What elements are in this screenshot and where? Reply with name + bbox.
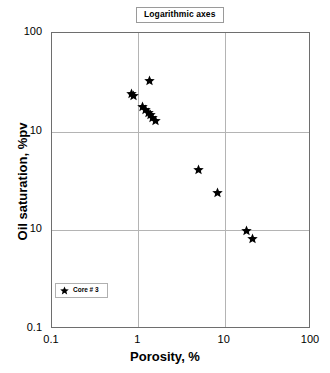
data-point-marker — [193, 164, 204, 175]
data-point-marker — [212, 187, 223, 198]
legend-label: Core # 3 — [73, 287, 99, 294]
data-point-marker — [150, 115, 161, 126]
y-tick-label: 100 — [24, 26, 47, 37]
legend-star-icon — [60, 286, 69, 295]
gridline-vertical — [225, 33, 226, 327]
x-tick-label: 0.1 — [31, 334, 71, 345]
gridline-horizontal — [52, 230, 309, 231]
chart-title: Logarithmic axes — [136, 7, 224, 23]
x-axis-title: Porosity, % — [0, 350, 330, 363]
y-axis-title: Oil saturation, %pv — [16, 92, 29, 272]
data-point-marker — [144, 75, 155, 86]
y-tick-label: 10 — [30, 125, 47, 136]
x-tick-label: 100 — [290, 334, 330, 345]
x-tick-label: 1 — [117, 334, 157, 345]
data-point-marker — [247, 233, 258, 244]
chart-figure: Logarithmic axes 10010100.1 0.1110100 Po… — [0, 0, 330, 373]
gridline-vertical — [138, 33, 139, 327]
y-tick-label: 0.1 — [27, 322, 47, 333]
y-tick-label: 10 — [30, 223, 47, 234]
x-tick-label: 10 — [204, 334, 244, 345]
gridline-horizontal — [52, 132, 309, 133]
legend: Core # 3 — [55, 283, 108, 298]
